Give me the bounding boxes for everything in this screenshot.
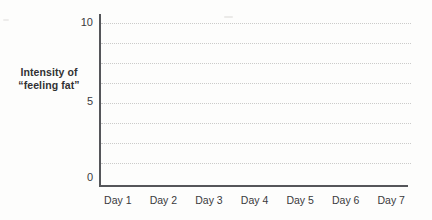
y-tick-label-0: 0 bbox=[58, 172, 93, 183]
gridline bbox=[101, 123, 411, 124]
scan-artifact bbox=[3, 19, 9, 21]
y-tick-label-10: 10 bbox=[58, 17, 93, 28]
x-tick-label-day5: Day 5 bbox=[277, 194, 323, 206]
y-axis-title-line1: Intensity of bbox=[9, 66, 89, 79]
x-axis-line bbox=[99, 185, 408, 187]
x-tick-label-day1: Day 1 bbox=[95, 194, 141, 206]
x-tick-label-day3: Day 3 bbox=[186, 194, 232, 206]
gridline bbox=[101, 143, 411, 144]
y-tick-label-5: 5 bbox=[58, 96, 93, 107]
y-axis-title-line2: “feeling fat” bbox=[9, 79, 89, 92]
gridline bbox=[101, 163, 411, 164]
gridline bbox=[101, 43, 411, 44]
y-axis-line bbox=[99, 14, 101, 187]
gridline bbox=[101, 23, 411, 24]
chart-canvas: Intensity of “feeling fat” 10 5 0 Day 1 … bbox=[0, 0, 432, 220]
gridline bbox=[101, 83, 411, 84]
x-axis-labels: Day 1 Day 2 Day 3 Day 4 Day 5 Day 6 Day … bbox=[95, 194, 414, 206]
x-tick-label-day4: Day 4 bbox=[232, 194, 278, 206]
y-axis-title: Intensity of “feeling fat” bbox=[9, 66, 89, 91]
x-tick-label-day7: Day 7 bbox=[368, 194, 414, 206]
scan-artifact bbox=[224, 16, 233, 18]
gridline bbox=[101, 63, 411, 64]
x-tick-label-day2: Day 2 bbox=[141, 194, 187, 206]
x-tick-label-day6: Day 6 bbox=[323, 194, 369, 206]
gridline bbox=[101, 103, 411, 104]
